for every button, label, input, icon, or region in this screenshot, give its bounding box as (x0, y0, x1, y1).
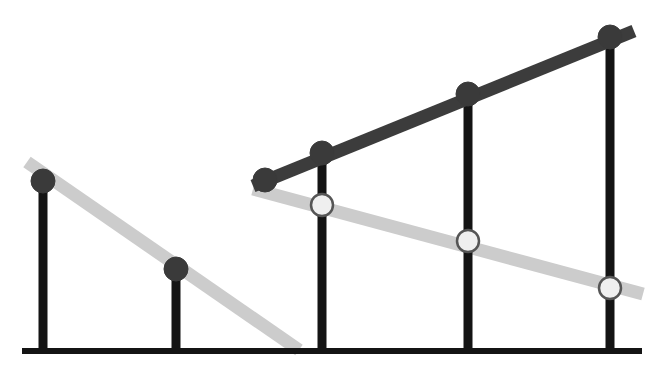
light-series-lines-group (27, 162, 643, 350)
data-point-dark-series-2[interactable] (310, 141, 334, 165)
data-point-light-series-right-3[interactable] (599, 277, 621, 299)
data-point-dark-series-3[interactable] (456, 82, 480, 106)
bar-4[interactable] (464, 94, 473, 351)
data-point-dark-series-4[interactable] (598, 25, 622, 49)
data-point-light-series-right-2[interactable] (457, 230, 479, 252)
dark-series-line-group (253, 31, 634, 186)
data-point-light-series-left-1[interactable] (31, 169, 55, 193)
data-point-light-series-right-1[interactable] (311, 194, 333, 216)
line-bar-chart (0, 0, 664, 375)
bar-3[interactable] (318, 153, 327, 351)
data-point-light-series-left-2[interactable] (164, 257, 188, 281)
data-point-dark-series-1[interactable] (253, 168, 277, 192)
bar-1[interactable] (39, 181, 48, 351)
series-line-dark-series (253, 31, 634, 186)
bar-5[interactable] (606, 37, 615, 351)
chart-canvas (0, 0, 664, 375)
